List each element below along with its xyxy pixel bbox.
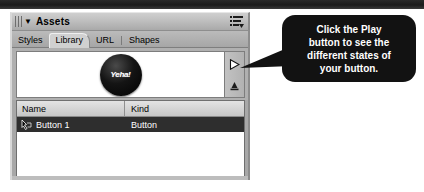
grip-dots-icon[interactable] <box>15 16 22 27</box>
row-kind-cell: Button <box>125 117 244 132</box>
preview-button-label: Yeha! <box>111 70 131 79</box>
preview-canvas[interactable]: Yeha! <box>16 51 224 98</box>
tab-separator <box>121 36 122 45</box>
preview-round-button[interactable]: Yeha! <box>100 54 142 96</box>
column-header-name[interactable]: Name <box>17 101 125 116</box>
callout-text: Click the Play button to see the differe… <box>307 23 391 75</box>
column-header-kind[interactable]: Kind <box>125 101 244 116</box>
asset-list[interactable]: Name Kind Button 1 Button <box>16 100 245 177</box>
window-top-bar <box>0 0 424 9</box>
tab-shapes[interactable]: Shapes <box>123 34 166 47</box>
assets-panel: ▼ Assets Styles Library URL Shapes Yeha! <box>10 12 250 180</box>
play-button[interactable] <box>228 58 241 71</box>
row-name-cell: Button 1 <box>17 117 125 132</box>
preview-controls <box>224 51 245 98</box>
panel-options-menu-icon[interactable] <box>230 16 243 27</box>
list-header-row: Name Kind <box>17 101 244 117</box>
tab-url[interactable]: URL <box>90 34 120 47</box>
panel-title: Assets <box>36 16 70 27</box>
table-row[interactable]: Button 1 Button <box>17 117 244 132</box>
callout-bubble: Click the Play button to see the differe… <box>282 15 416 82</box>
tab-library[interactable]: Library <box>49 33 91 48</box>
chevron-down-icon[interactable]: ▼ <box>24 18 32 26</box>
stop-button[interactable] <box>228 79 241 91</box>
panel-tab-strip: Styles Library URL Shapes <box>12 31 248 48</box>
button-hand-cursor-icon <box>20 119 33 131</box>
tab-styles[interactable]: Styles <box>12 34 49 47</box>
asset-preview-area: Yeha! <box>12 48 248 100</box>
row-name-text: Button 1 <box>36 120 70 130</box>
panel-bottom-edge <box>12 176 248 180</box>
panel-titlebar[interactable]: ▼ Assets <box>12 13 248 31</box>
